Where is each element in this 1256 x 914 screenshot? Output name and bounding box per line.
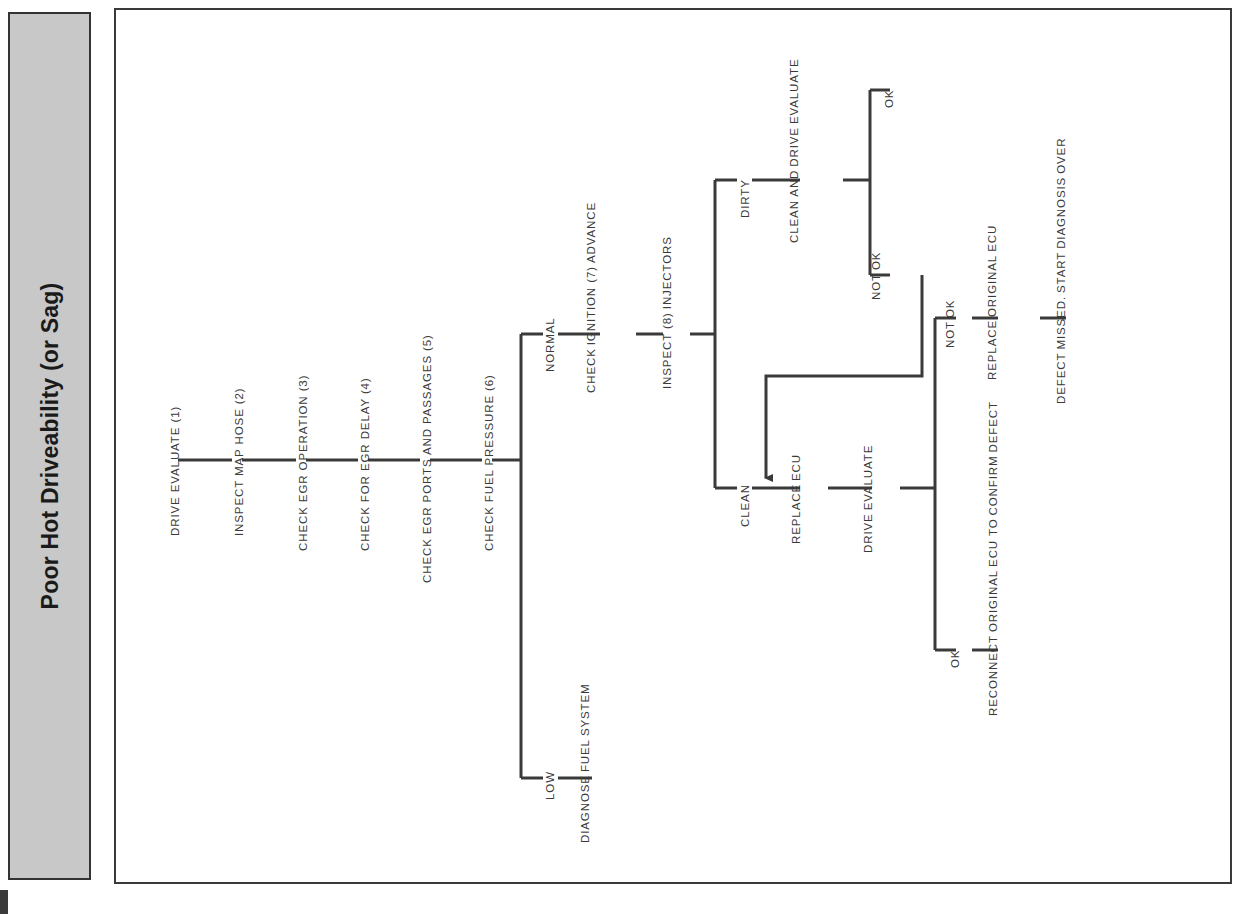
branch-label-not-ok-loop: NOT OK — [871, 249, 883, 300]
node-label-check-egr-operation-3: CHECK EGR OPERATION (3) — [298, 375, 310, 551]
branch-label-clean: CLEAN — [740, 484, 752, 527]
node-label-replace-ecu: REPLACE ECU — [791, 451, 803, 544]
diagram-canvas — [0, 0, 1256, 914]
node-label-check-ignition-advance: CHECK IGNITION (7) ADVANCE — [586, 199, 598, 393]
node-label-drive-evaluate-1: DRIVE EVALUATE (1) — [170, 406, 182, 536]
node-label-drive-evaluate-2: DRIVE EVALUATE — [863, 442, 875, 553]
node-label-replace-original-ecu: REPLACE ORIGINAL ECU — [987, 222, 999, 380]
node-label-reconnect-original-ecu: RECONNECT ORIGINAL ECU TO CONFIRM DEFECT — [988, 398, 1000, 716]
node-label-clean-and-drive-evaluate: CLEAN AND DRIVE EVALUATE — [789, 55, 801, 243]
branch-label-ok-top: OK — [884, 90, 896, 108]
branch-label-dirty: DIRTY — [740, 179, 752, 218]
branch-label-normal: NORMAL — [545, 317, 557, 372]
node-label-inspect-map-hose-2: INSPECT MAP HOSE (2) — [234, 387, 246, 536]
branch-label-ok-ecu: OK — [950, 650, 962, 668]
node-label-defect-missed: DEFECT MISSED. START DIAGNOSIS OVER — [1056, 135, 1068, 404]
branch-label-not-ok-ecu: NOT OK — [945, 297, 957, 348]
branch-label-low: LOW — [545, 771, 557, 800]
node-label-check-egr-ports-5: CHECK EGR PORTS AND PASSAGES (5) — [422, 334, 434, 583]
feedback-loop-notok — [766, 275, 922, 478]
node-label-check-for-egr-delay-4: CHECK FOR EGR DELAY (4) — [360, 377, 372, 551]
node-label-inspect-injectors: INSPECT (8) INJECTORS — [662, 233, 674, 389]
node-label-check-fuel-pressure-6: CHECK FUEL PRESSURE (6) — [484, 374, 496, 551]
node-label-diagnose-fuel-system: DIAGNOSE FUEL SYSTEM — [580, 680, 592, 843]
